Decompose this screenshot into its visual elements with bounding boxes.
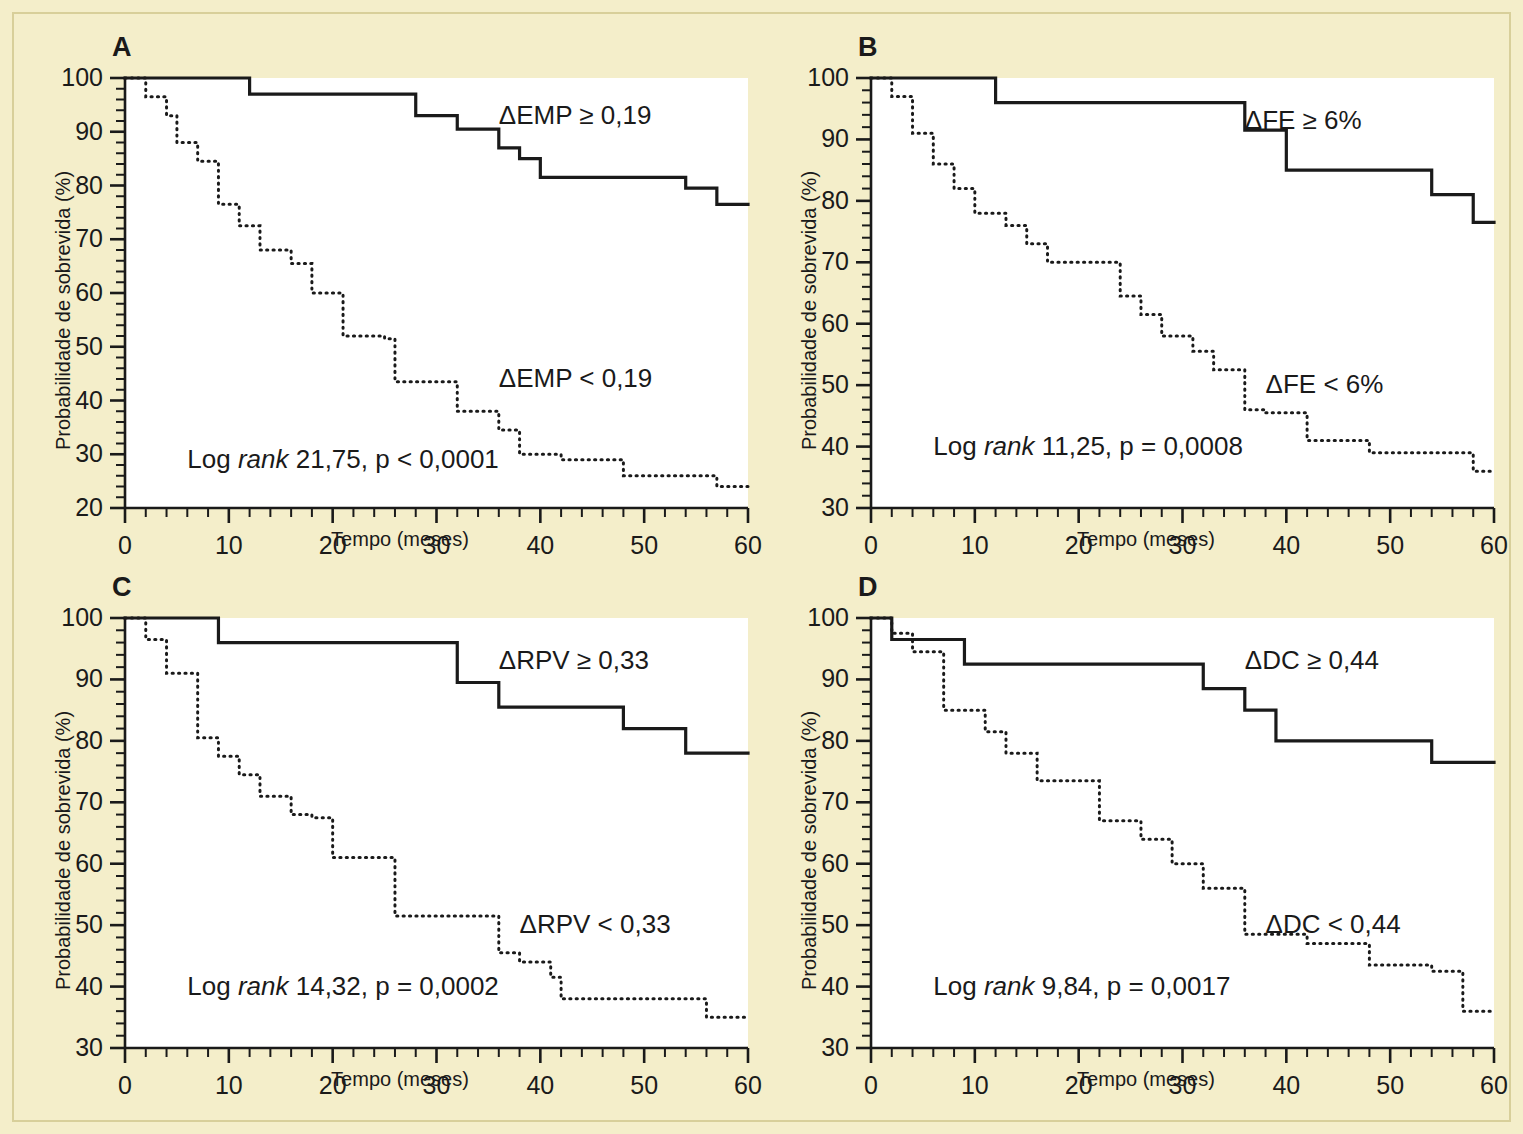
svg-text:50: 50 <box>821 370 849 398</box>
svg-text:ΔRPV ≥ 0,33: ΔRPV ≥ 0,33 <box>499 645 649 675</box>
svg-text:50: 50 <box>1376 1071 1404 1098</box>
svg-text:100: 100 <box>807 63 849 91</box>
panel-a-plot: 20304050607080901000102030405060ΔEMP ≥ 0… <box>30 58 770 558</box>
svg-text:60: 60 <box>821 849 849 877</box>
panel-a-xlabel: Tempo (meses) <box>230 528 570 551</box>
svg-text:90: 90 <box>75 117 103 145</box>
svg-text:80: 80 <box>75 726 103 754</box>
svg-text:60: 60 <box>1480 531 1508 558</box>
svg-text:80: 80 <box>821 726 849 754</box>
svg-text:60: 60 <box>75 849 103 877</box>
svg-text:50: 50 <box>821 910 849 938</box>
panel-d-plot: 304050607080901000102030405060ΔDC ≥ 0,44… <box>776 598 1516 1098</box>
svg-text:60: 60 <box>734 531 762 558</box>
svg-text:60: 60 <box>821 309 849 337</box>
svg-text:0: 0 <box>864 1071 878 1098</box>
panel-d: D Probabilidade de sobrevida (%) 3040506… <box>776 570 1516 1100</box>
svg-text:ΔFE ≥ 6%: ΔFE ≥ 6% <box>1245 105 1362 135</box>
panel-b-xlabel: Tempo (meses) <box>976 528 1316 551</box>
svg-text:0: 0 <box>864 531 878 558</box>
svg-text:30: 30 <box>75 439 103 467</box>
svg-text:50: 50 <box>75 910 103 938</box>
svg-text:20: 20 <box>75 493 103 521</box>
svg-text:ΔFE < 6%: ΔFE < 6% <box>1266 369 1384 399</box>
panel-d-xlabel: Tempo (meses) <box>976 1068 1316 1091</box>
svg-text:100: 100 <box>61 603 103 631</box>
svg-text:ΔDC < 0,44: ΔDC < 0,44 <box>1266 909 1401 939</box>
svg-text:90: 90 <box>821 664 849 692</box>
svg-text:ΔEMP < 0,19: ΔEMP < 0,19 <box>499 363 652 393</box>
svg-text:Log rank 14,32, p = 0,0002: Log rank 14,32, p = 0,0002 <box>187 971 499 1001</box>
svg-text:40: 40 <box>75 386 103 414</box>
svg-text:50: 50 <box>75 332 103 360</box>
svg-text:0: 0 <box>118 1071 132 1098</box>
panel-a: A Probabilidade de sobrevida (%) 2030405… <box>30 30 770 560</box>
panel-c-xlabel: Tempo (meses) <box>230 1068 570 1091</box>
svg-text:40: 40 <box>75 972 103 1000</box>
svg-text:70: 70 <box>75 224 103 252</box>
svg-text:100: 100 <box>61 63 103 91</box>
svg-text:70: 70 <box>75 787 103 815</box>
svg-text:80: 80 <box>821 186 849 214</box>
svg-text:Log rank 11,25, p = 0,0008: Log rank 11,25, p = 0,0008 <box>933 431 1243 461</box>
svg-text:50: 50 <box>630 1071 658 1098</box>
svg-text:70: 70 <box>821 787 849 815</box>
svg-text:Log rank 21,75, p < 0,0001: Log rank 21,75, p < 0,0001 <box>187 444 499 474</box>
panel-c-plot: 304050607080901000102030405060ΔRPV ≥ 0,3… <box>30 598 770 1098</box>
svg-text:60: 60 <box>1480 1071 1508 1098</box>
svg-text:90: 90 <box>821 124 849 152</box>
svg-text:100: 100 <box>807 603 849 631</box>
svg-text:70: 70 <box>821 247 849 275</box>
svg-text:50: 50 <box>1376 531 1404 558</box>
svg-text:ΔRPV < 0,33: ΔRPV < 0,33 <box>520 909 671 939</box>
svg-text:80: 80 <box>75 171 103 199</box>
svg-text:60: 60 <box>734 1071 762 1098</box>
svg-text:ΔDC ≥ 0,44: ΔDC ≥ 0,44 <box>1245 645 1379 675</box>
panel-b-plot: 304050607080901000102030405060ΔFE ≥ 6%ΔF… <box>776 58 1516 558</box>
figure-root: A Probabilidade de sobrevida (%) 2030405… <box>0 0 1523 1134</box>
panel-b: B Probabilidade de sobrevida (%) 3040506… <box>776 30 1516 560</box>
svg-text:30: 30 <box>821 1033 849 1061</box>
svg-text:40: 40 <box>821 432 849 460</box>
svg-text:0: 0 <box>118 531 132 558</box>
svg-text:30: 30 <box>821 493 849 521</box>
svg-text:ΔEMP ≥ 0,19: ΔEMP ≥ 0,19 <box>499 100 652 130</box>
panel-c: C Probabilidade de sobrevida (%) 3040506… <box>30 570 770 1100</box>
svg-text:50: 50 <box>630 531 658 558</box>
svg-text:90: 90 <box>75 664 103 692</box>
svg-text:30: 30 <box>75 1033 103 1061</box>
svg-text:Log rank 9,84, p = 0,0017: Log rank 9,84, p = 0,0017 <box>933 971 1230 1001</box>
svg-text:40: 40 <box>821 972 849 1000</box>
svg-text:60: 60 <box>75 278 103 306</box>
